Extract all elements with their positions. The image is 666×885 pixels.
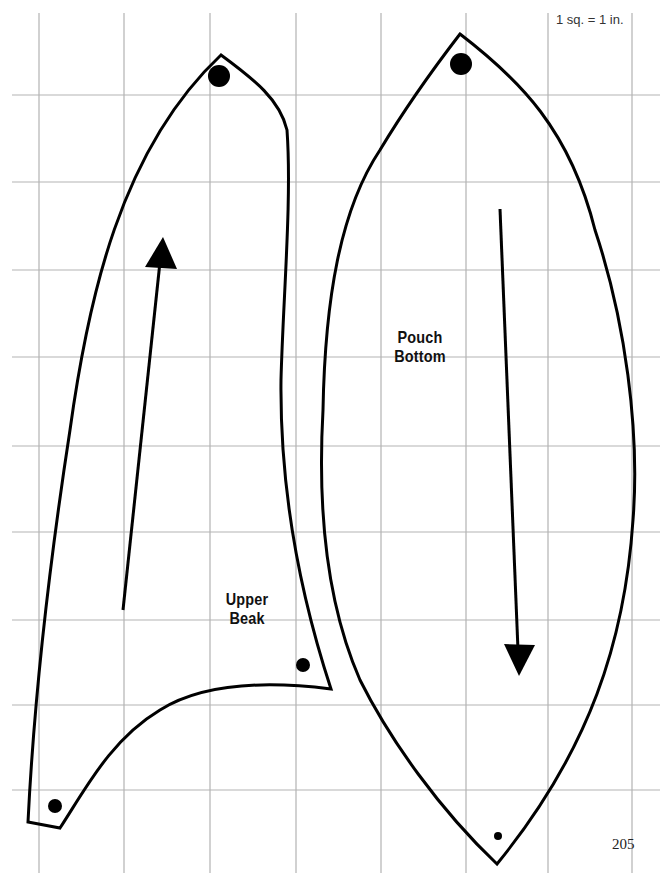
placement-dot-icon <box>48 799 62 813</box>
placement-dot-icon <box>208 65 230 87</box>
page-number: 205 <box>612 836 635 853</box>
pouch-bottom-outline <box>322 34 635 864</box>
pattern-page: 1 sq. = 1 in. Upper Beak Pouch Bottom 20… <box>0 0 666 885</box>
scale-note: 1 sq. = 1 in. <box>556 12 624 27</box>
placement-dot-icon <box>296 658 310 672</box>
pouch-bottom-grainline-arrow-icon <box>500 209 535 676</box>
upper-beak-grainline-arrow-icon <box>123 237 177 610</box>
pouch-bottom-label: Pouch Bottom <box>389 328 452 366</box>
pattern-pieces <box>0 0 666 885</box>
upper-beak-label: Upper Beak <box>217 590 277 628</box>
placement-dot-icon <box>450 53 472 75</box>
upper-beak-label-line-2: Beak <box>217 609 277 628</box>
pouch-bottom-label-line-2: Bottom <box>389 347 452 366</box>
placement-dots <box>48 53 502 840</box>
pouch-bottom-label-line-1: Pouch <box>389 328 452 347</box>
placement-dot-icon <box>494 832 502 840</box>
upper-beak-outline <box>28 55 331 828</box>
upper-beak-label-line-1: Upper <box>217 590 277 609</box>
